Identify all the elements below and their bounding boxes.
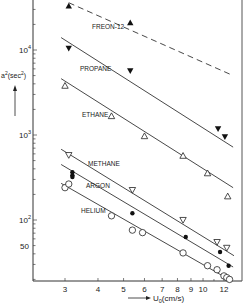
marker-methane [180,217,186,223]
marker-helium [214,267,220,273]
marker-helium [139,229,145,235]
data-points [62,3,233,283]
marker-helium [226,276,232,282]
fit-line-argon [61,164,233,267]
chart-canvas: 5010210310434567891012U0(cm/s)a2(sec2) F… [0,0,248,306]
marker-ethane [225,193,231,199]
x-tick-label: 4 [96,285,101,294]
x-tick-label: 9 [189,285,194,294]
marker-propane [127,68,133,74]
marker-ethane [108,113,114,119]
marker-argon [184,235,188,239]
marker-freon-12 [127,19,133,25]
label-helium: HELIUM [81,207,106,214]
marker-ethane [141,133,147,139]
x-tick-label: 6 [142,285,147,294]
label-ethane: ETHANE [82,111,109,118]
series-labels: FREON-12 PROPANE ETHANE METHANE ARGON HE… [80,23,125,214]
axes: 5010210310434567891012U0(cm/s)a2(sec2) [1,0,242,304]
marker-propane [222,134,228,140]
x-tick-label: 3 [63,285,68,294]
marker-argon [218,250,222,254]
y-tick-label: 103 [19,129,31,140]
x-tick-label: 10 [199,285,208,294]
label-freon: FREON-12 [92,23,125,30]
marker-helium [180,250,186,256]
x-tick-label: 5 [121,285,126,294]
x-tick-label: 12 [219,285,228,294]
y-tick-label: 102 [19,214,31,225]
marker-helium [204,262,210,268]
marker-helium [108,213,114,219]
x-axis-label: U0(cm/s) [153,294,184,304]
marker-helium [66,181,72,187]
marker-argon [226,263,230,267]
label-propane: PROPANE [80,65,112,72]
label-methane: METHANE [88,160,120,167]
x-tick-label: 7 [160,285,165,294]
fit-line-propane [61,38,233,148]
marker-ethane [180,153,186,159]
marker-ethane [62,83,68,89]
label-argon: ARGON [86,182,110,189]
fit-lines [61,3,234,282]
marker-helium [129,227,135,233]
marker-argon [70,175,74,179]
y-tick-label: 50 [20,242,29,251]
y-axis-label: a2(sec2) [1,70,26,80]
marker-methane [129,188,135,194]
marker-argon [130,211,134,215]
marker-propane [66,46,72,52]
marker-propane [215,126,221,132]
y-tick-label: 104 [19,44,31,55]
x-tick-label: 8 [175,285,180,294]
